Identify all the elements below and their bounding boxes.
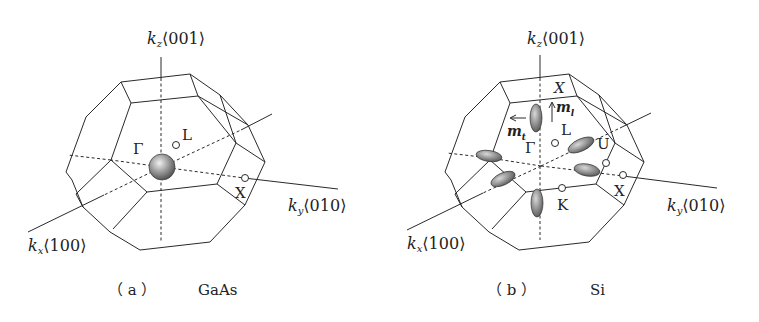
u-label-b: U (597, 137, 610, 152)
k-point-marker (559, 185, 566, 192)
u-point-marker (603, 160, 610, 167)
k-label-b: K (557, 198, 568, 213)
kz-direction: ⟨001⟩ (542, 29, 585, 48)
kz-symbol: k (147, 29, 157, 48)
kz-axis-label-a: kz⟨001⟩ (147, 31, 205, 49)
brillouin-zone-figure: kz⟨001⟩ kx⟨100⟩ ky⟨010⟩ Γ L X （ a ） GaAs… (0, 0, 759, 322)
panel-a-drawing (28, 57, 338, 250)
kx-axis-label-b: kx⟨100⟩ (407, 236, 465, 254)
ml-label: ml (556, 100, 574, 118)
mt-subscript: t (522, 132, 526, 142)
ky-direction: ⟨010⟩ (682, 196, 725, 215)
gamma-label-b: Γ (525, 141, 535, 156)
valley-ellipsoid-bottom (531, 189, 543, 217)
caption-material-b: Si (590, 283, 605, 298)
x-label-a: X (235, 186, 246, 201)
valley-ellipsoid-right (573, 162, 601, 178)
kx-axis-line (28, 195, 104, 232)
ky-symbol: k (667, 196, 677, 215)
kz-direction: ⟨001⟩ (162, 29, 205, 48)
ky-axis-label-a: ky⟨010⟩ (288, 198, 346, 216)
kx-direction: ⟨100⟩ (422, 234, 465, 253)
mt-label: mt (507, 124, 526, 142)
valley-ellipsoid-top (530, 104, 542, 132)
kx-symbol: k (407, 234, 417, 253)
ml-symbol: m (556, 99, 571, 115)
kx-axis-label-a: kx⟨100⟩ (28, 238, 86, 256)
ky-axis-line (244, 178, 338, 189)
l-label-a: L (182, 128, 192, 143)
ky-axis-label-b: ky⟨010⟩ (667, 198, 725, 216)
valley-ellipsoid-left (475, 149, 502, 164)
kz-symbol: k (527, 29, 537, 48)
l-point-marker (173, 142, 180, 149)
l-label-b: L (561, 123, 571, 138)
l-point-marker (552, 140, 559, 147)
caption-letter-a: （ a ） (108, 283, 156, 298)
ky-direction: ⟨010⟩ (303, 196, 346, 215)
x-label-b: X (614, 184, 625, 199)
x-top-label-b: X (554, 81, 565, 96)
gamma-label-a: Γ (133, 142, 143, 157)
kz-axis-label-b: kz⟨001⟩ (527, 31, 585, 49)
kx-symbol: k (28, 236, 38, 255)
caption-material-a: GaAs (198, 283, 237, 298)
x-point-marker (620, 172, 627, 179)
caption-letter-b: （ b ） (487, 283, 536, 298)
gamma-valley-sphere (149, 154, 175, 180)
x-point-marker (242, 175, 249, 182)
ky-symbol: k (288, 196, 298, 215)
mt-symbol: m (507, 123, 522, 139)
kx-direction: ⟨100⟩ (43, 236, 86, 255)
ml-subscript: l (571, 108, 574, 118)
figure-drawing (0, 0, 759, 322)
